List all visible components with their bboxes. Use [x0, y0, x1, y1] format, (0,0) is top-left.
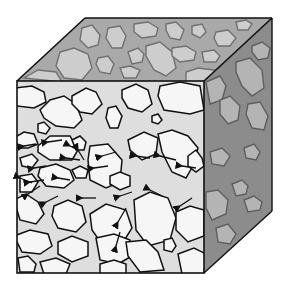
porous-cube-diagram: Porous medium cube with flow paths	[0, 0, 287, 285]
front-face	[14, 81, 206, 274]
